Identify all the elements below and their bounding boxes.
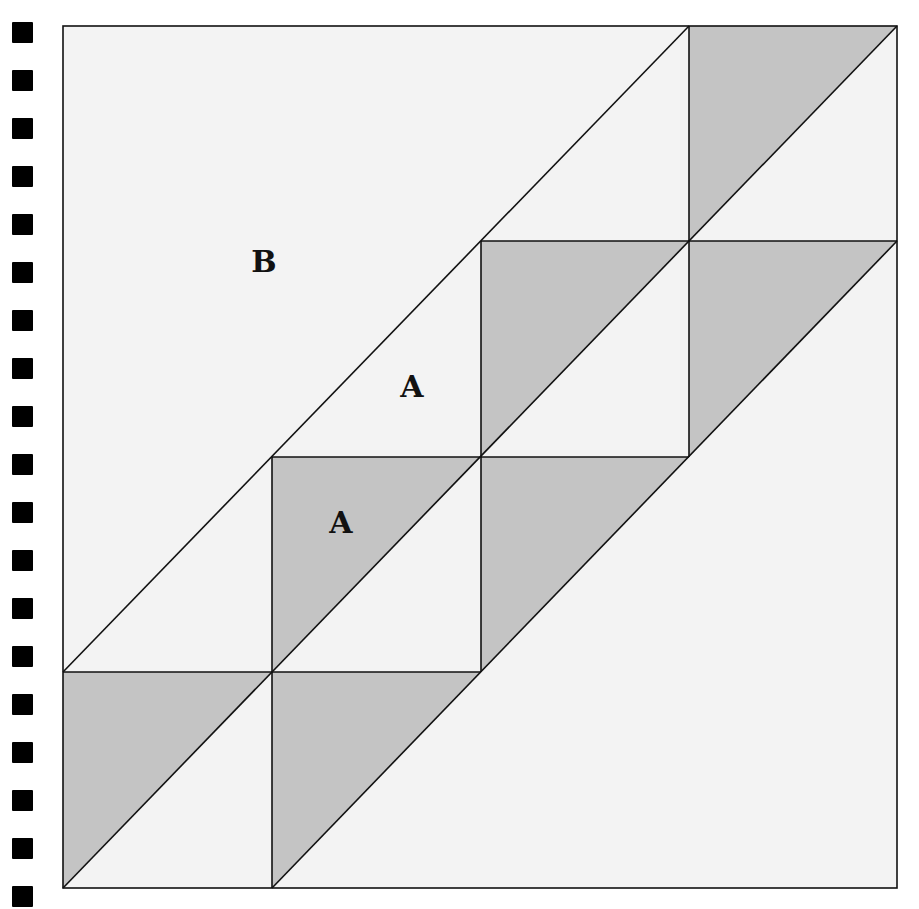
quilt-diagram: B A A: [0, 0, 919, 909]
label-a-upper: A: [399, 369, 424, 404]
label-a-lower: A: [328, 505, 353, 540]
label-b: B: [251, 244, 276, 279]
